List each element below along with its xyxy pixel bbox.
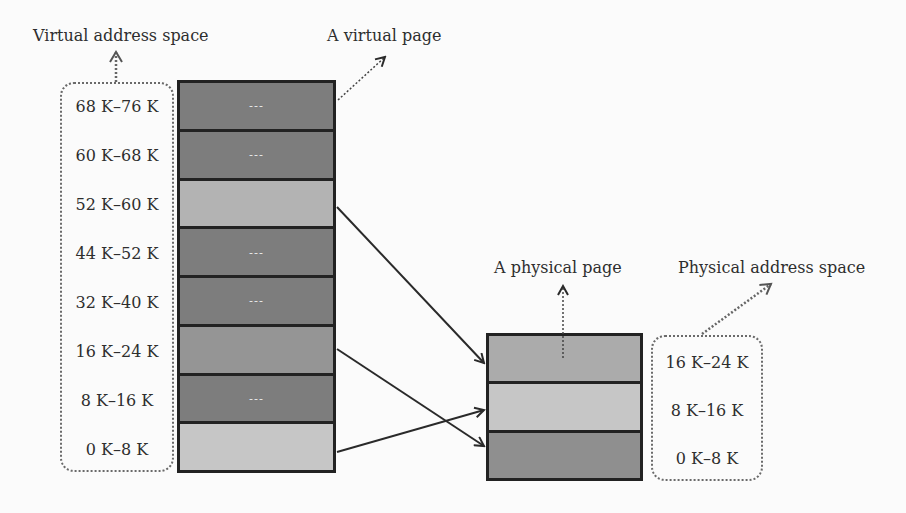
mapping-arrow: [337, 207, 484, 363]
arrows-layer: [0, 0, 906, 513]
physical-space-callout-arrow: [702, 284, 771, 334]
virtual-page-callout-arrow: [338, 57, 385, 100]
